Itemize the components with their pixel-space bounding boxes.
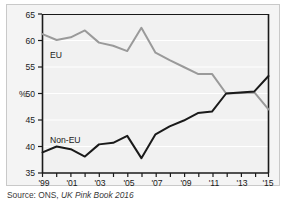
y-tick-label-65: 65	[25, 10, 35, 20]
series-annotation-eu: EU	[50, 50, 62, 60]
x-tick-label-09: '09	[180, 178, 191, 188]
x-tick-label-01: '01	[66, 178, 77, 188]
source-publication: UK Pink Book 2016	[61, 190, 134, 200]
y-tick-label-40: 40	[25, 142, 35, 152]
figure-container: 35 40 45 50 55 60 65 %	[0, 0, 286, 209]
source-prefix: Source: ONS,	[7, 190, 61, 200]
x-tick-label-05: '05	[123, 178, 134, 188]
y-tick-label-35: 35	[25, 168, 35, 178]
y-tick-marks	[38, 14, 42, 173]
source-caption: Source: ONS, UK Pink Book 2016	[7, 190, 134, 200]
x-tick-label-11: '11	[209, 178, 220, 188]
y-tick-label-45: 45	[25, 115, 35, 125]
y-tick-label-55: 55	[25, 62, 35, 72]
series-annotation-non-eu: Non-EU	[50, 135, 81, 145]
x-tick-label-99: '99	[38, 178, 49, 188]
y-tick-label-60: 60	[25, 36, 35, 46]
x-tick-label-15: '15	[262, 178, 273, 188]
x-tick-label-13: '13	[236, 178, 247, 188]
x-tick-label-03: '03	[94, 178, 105, 188]
line-chart: 35 40 45 50 55 60 65 %	[0, 0, 286, 209]
x-tick-label-07: '07	[151, 178, 162, 188]
y-axis-unit-label: %	[19, 89, 27, 99]
y-tick-label-50: 50	[25, 89, 35, 99]
